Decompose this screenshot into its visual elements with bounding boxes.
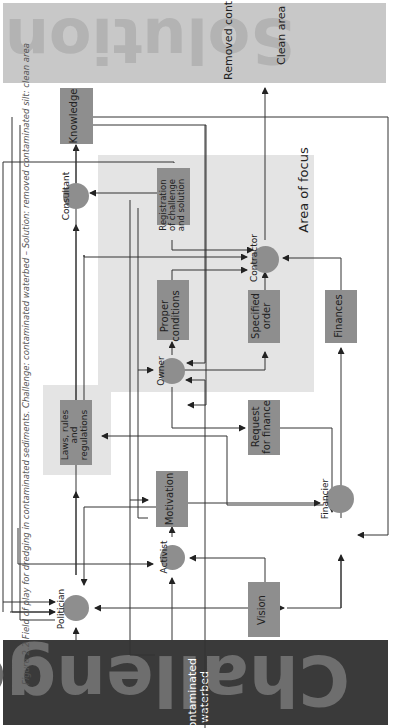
figure-caption: Figure 2.2 Field of play for dredging in… (22, 0, 34, 728)
node-specified-order-label: Specified order (251, 290, 277, 342)
node-owner-label: Owner (157, 353, 169, 389)
node-consultant-label: Consultant (62, 166, 74, 226)
node-activist-label: Activist (160, 537, 172, 577)
node-proper-conditions-label: Proper conditions (160, 286, 186, 346)
node-finances-label: Finances (334, 288, 348, 344)
node-request-finance-label: Request for finance (251, 399, 277, 455)
node-politician-label: Politician (57, 584, 69, 634)
node-vision-label: Vision (257, 585, 271, 635)
node-financier-label: Financier (321, 474, 333, 524)
node-motivation-label: Motivation (165, 469, 179, 529)
node-registration-label: Registration of challenge and solution (159, 176, 189, 234)
node-knowledge-label: Knowledge (69, 86, 83, 146)
node-laws-label: Laws, rules and regulations (61, 403, 91, 467)
node-contractor-label: Contractor (250, 228, 262, 288)
